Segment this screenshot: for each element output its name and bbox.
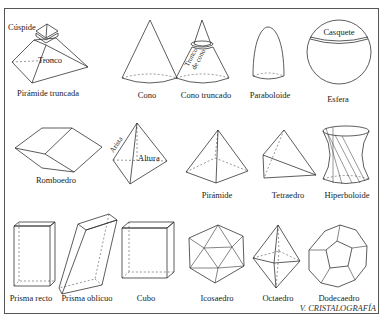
icosaedro-label: Icosaedro [200,293,233,303]
octahedron-shape [253,225,300,288]
romboedro-label: Romboedro [36,175,76,185]
cono-truncado-label: Cono truncado [181,90,231,100]
cuspide-label: Cúspide [8,22,36,32]
paraboloide-label: Paraboloide [250,90,291,100]
casquete-label: Casquete [323,27,354,37]
cubo-label: Cubo [137,293,155,303]
pyramid-shape [186,130,248,183]
cone-shape [122,20,177,83]
prisma-oblicuo-label: Prisma oblicuo [61,293,112,303]
altura-label: Altura [138,153,160,163]
piramide-truncada-label: Pirámide truncada [17,88,79,98]
oblique-prism-shape [59,214,117,294]
tetraedro-label: Tetraedro [272,190,304,200]
prisma-recto-label: Prisma recto [10,293,53,303]
section-caption: V. CRISTALOGRAFÍA [300,303,376,313]
paraboloid-shape [253,27,284,79]
hiperboloide-label: Hiperboloide [325,190,370,200]
tronco-label: Tronco [38,55,62,65]
dodecaedro-label: Dodecaedro [318,293,359,303]
piramide-label: Pirámide [202,190,233,200]
hyperboloid-shape [323,126,369,184]
octaedro-label: Octaedro [262,293,293,303]
dodecahedron-shape [309,225,367,287]
esfera-label: Esfera [327,94,349,104]
cono-label: Cono [138,90,156,100]
icosahedron-shape [189,225,244,283]
rhombohedron-shape [15,128,102,172]
tetrahedron-shape [263,130,316,178]
truncated-pyramid-shape [12,24,88,83]
right-prism-shape [14,222,55,286]
cube-shape [122,222,174,278]
